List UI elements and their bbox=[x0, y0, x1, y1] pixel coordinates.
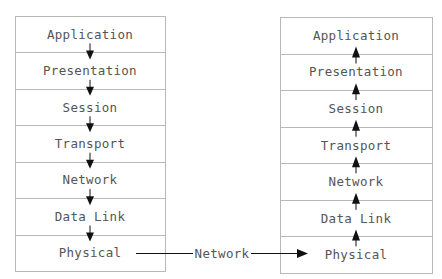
receiver-layer-label: Application bbox=[313, 28, 399, 43]
sender-layer-label: Transport bbox=[55, 136, 125, 151]
sender-layer-application: Application bbox=[47, 27, 133, 42]
connector-label: Network bbox=[195, 246, 250, 261]
sender-layer-label: Application bbox=[47, 27, 133, 42]
sender-layer-label: Presentation bbox=[43, 63, 137, 78]
sender-layer-label: Data Link bbox=[55, 209, 126, 224]
receiver-layer-label: Network bbox=[329, 174, 384, 189]
osi-diagram: ApplicationPresentationSessionTransportN… bbox=[0, 0, 442, 279]
receiver-layer-label: Session bbox=[329, 101, 384, 116]
receiver-layer-label: Physical bbox=[325, 247, 388, 262]
sender-layer-label: Session bbox=[63, 100, 118, 115]
receiver-layer-label: Presentation bbox=[309, 64, 403, 79]
sender-layer-label: Network bbox=[63, 172, 118, 187]
receiver-stack: ApplicationPresentationSessionTransportN… bbox=[280, 18, 433, 274]
sender-layer-label: Physical bbox=[59, 245, 122, 260]
receiver-layer-application: Application bbox=[313, 28, 399, 43]
sender-stack: ApplicationPresentationSessionTransportN… bbox=[15, 17, 166, 272]
receiver-layer-label: Data Link bbox=[321, 211, 392, 226]
receiver-layer-label: Transport bbox=[321, 138, 391, 153]
